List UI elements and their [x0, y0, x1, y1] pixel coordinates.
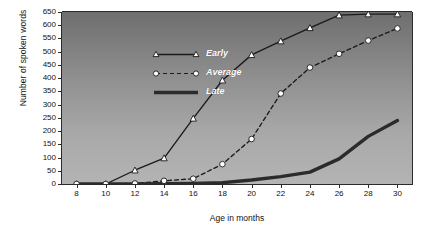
legend-swatch-average	[150, 64, 202, 83]
x-tick-label: 16	[178, 190, 208, 198]
x-tick-label: 8	[62, 190, 92, 198]
data-point-average	[220, 161, 226, 167]
legend-item-average: Average	[150, 64, 265, 83]
data-point-average	[336, 51, 342, 57]
x-tick-label: 12	[120, 190, 150, 198]
data-point-average	[161, 178, 167, 184]
y-tick-label: 250	[0, 114, 56, 122]
x-tick-label: 20	[237, 190, 267, 198]
y-tick-label: 450	[0, 61, 56, 69]
x-tick-label: 22	[266, 190, 296, 198]
x-tick-mark	[339, 184, 340, 188]
data-point-early	[365, 12, 371, 17]
x-tick-mark	[368, 184, 369, 188]
data-point-average	[307, 65, 313, 71]
chart-figure: Number of spoken words 05010015020025030…	[0, 0, 429, 239]
x-tick-mark	[281, 184, 282, 188]
data-point-average	[190, 176, 196, 182]
y-tick-label: 0	[0, 180, 56, 188]
plot-area: Early Average Late	[62, 12, 413, 184]
x-tick-mark	[397, 184, 398, 188]
y-tick-label: 100	[0, 154, 56, 162]
y-tick-label: 400	[0, 74, 56, 82]
legend-item-early: Early	[150, 45, 265, 64]
y-tick-mark	[58, 184, 62, 185]
legend-swatch-late	[150, 83, 202, 102]
y-tick-label: 300	[0, 101, 56, 109]
x-tick-label: 14	[149, 190, 179, 198]
legend-label-early: Early	[206, 48, 228, 58]
x-tick-mark	[106, 184, 107, 188]
x-tick-label: 18	[207, 190, 237, 198]
y-tick-label: 50	[0, 167, 56, 175]
y-tick-label: 550	[0, 34, 56, 42]
y-tick-label: 200	[0, 127, 56, 135]
x-tick-mark	[193, 184, 194, 188]
legend-item-late: Late	[150, 83, 265, 102]
data-point-average	[103, 181, 109, 184]
data-point-early	[394, 12, 400, 17]
legend-label-late: Late	[206, 86, 225, 96]
x-tick-label: 30	[382, 190, 412, 198]
x-tick-mark	[310, 184, 311, 188]
x-axis-title: Age in months	[62, 213, 412, 223]
x-axis-line	[61, 184, 413, 185]
x-tick-label: 10	[91, 190, 121, 198]
x-tick-label: 24	[295, 190, 325, 198]
legend-label-average: Average	[206, 67, 242, 77]
x-tick-mark	[77, 184, 78, 188]
data-point-average	[365, 38, 371, 44]
data-point-average	[132, 181, 138, 184]
legend-swatch-early	[150, 45, 202, 64]
data-point-average	[249, 136, 255, 142]
data-point-early	[278, 38, 284, 44]
y-tick-label: 600	[0, 21, 56, 29]
legend: Early Average Late	[150, 45, 265, 102]
x-tick-mark	[135, 184, 136, 188]
y-tick-label: 650	[0, 8, 56, 16]
y-tick-label: 350	[0, 87, 56, 95]
x-tick-mark	[222, 184, 223, 188]
x-tick-label: 28	[353, 190, 383, 198]
x-tick-label: 26	[324, 190, 354, 198]
data-point-average	[278, 91, 284, 97]
data-point-average	[74, 181, 80, 184]
x-tick-mark	[164, 184, 165, 188]
data-point-average	[395, 26, 401, 32]
x-tick-mark	[252, 184, 253, 188]
y-tick-label: 500	[0, 48, 56, 56]
y-tick-label: 150	[0, 140, 56, 148]
